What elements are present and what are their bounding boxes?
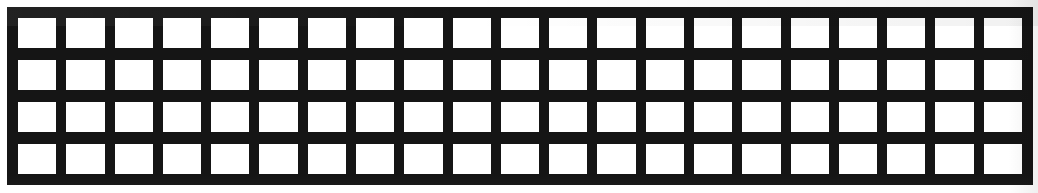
lattice-cell (501, 144, 539, 174)
lattice-cell (549, 18, 587, 48)
lattice-cell (742, 102, 780, 132)
lattice-cell (501, 102, 539, 132)
lattice-cell (935, 60, 973, 90)
lattice-cell (453, 60, 491, 90)
lattice-cell (453, 144, 491, 174)
lattice-cell (742, 60, 780, 90)
lattice-cell (501, 60, 539, 90)
lattice-cell (18, 60, 56, 90)
lattice-cell (839, 18, 877, 48)
lattice-cell (308, 102, 346, 132)
lattice-cell (839, 144, 877, 174)
lattice-cell (791, 102, 829, 132)
lattice-cell (18, 144, 56, 174)
lattice-cell (887, 102, 925, 132)
lattice-cell (18, 102, 56, 132)
lattice-cell (66, 60, 104, 90)
lattice-cell (694, 60, 732, 90)
lattice-cell (308, 144, 346, 174)
lattice-cell (597, 144, 635, 174)
lattice-cell (308, 18, 346, 48)
lattice-cell (646, 60, 684, 90)
lattice-cell (404, 144, 442, 174)
lattice-cell (356, 18, 394, 48)
lattice-cell (115, 144, 153, 174)
lattice-cell (163, 18, 201, 48)
lattice-cell (356, 144, 394, 174)
lattice-cell (742, 18, 780, 48)
lattice-cell (115, 60, 153, 90)
lattice-cell (935, 18, 973, 48)
lattice-cell (211, 18, 249, 48)
lattice-cell (791, 144, 829, 174)
lattice-cell (694, 18, 732, 48)
lattice-cell (742, 144, 780, 174)
lattice-cell (839, 102, 877, 132)
lattice-cell (646, 102, 684, 132)
lattice-cell (887, 60, 925, 90)
lattice-cell (404, 102, 442, 132)
lattice-cell (935, 102, 973, 132)
lattice-cell (694, 102, 732, 132)
lattice-cell (597, 102, 635, 132)
lattice-cell (984, 144, 1022, 174)
lattice-cell (646, 18, 684, 48)
lattice-cell (549, 102, 587, 132)
lattice-cell (66, 18, 104, 48)
lattice-cell (984, 60, 1022, 90)
lattice-cell (887, 144, 925, 174)
lattice-cell (501, 18, 539, 48)
lattice-cell (211, 60, 249, 90)
lattice-cell (791, 60, 829, 90)
lattice-cell (549, 60, 587, 90)
lattice-cell (404, 18, 442, 48)
lattice-cell (935, 144, 973, 174)
lattice-cell (115, 18, 153, 48)
lattice-cell (259, 144, 297, 174)
lattice-cell (839, 60, 877, 90)
lattice-cell (66, 102, 104, 132)
lattice-cell (356, 60, 394, 90)
lattice-panel (7, 7, 1033, 185)
lattice-cell (163, 102, 201, 132)
lattice-cell (211, 102, 249, 132)
lattice-cell (549, 144, 587, 174)
lattice-cell (163, 144, 201, 174)
lattice-cell (259, 102, 297, 132)
lattice-cell (597, 18, 635, 48)
lattice-cell (259, 60, 297, 90)
lattice-cell (356, 102, 394, 132)
lattice-cell (308, 60, 346, 90)
lattice-cell (18, 18, 56, 48)
lattice-cell (791, 18, 829, 48)
lattice-cell (984, 102, 1022, 132)
lattice-cell (453, 102, 491, 132)
lattice-cell (259, 18, 297, 48)
lattice-cell (404, 60, 442, 90)
lattice-cell (115, 102, 153, 132)
lattice-cell (887, 18, 925, 48)
lattice-cell (163, 60, 201, 90)
grid-figure (0, 0, 1038, 193)
lattice-cell (597, 60, 635, 90)
lattice-cell (453, 18, 491, 48)
lattice-cell (211, 144, 249, 174)
lattice-cell (694, 144, 732, 174)
lattice-cell (66, 144, 104, 174)
lattice-cell (984, 18, 1022, 48)
lattice-cell (646, 144, 684, 174)
